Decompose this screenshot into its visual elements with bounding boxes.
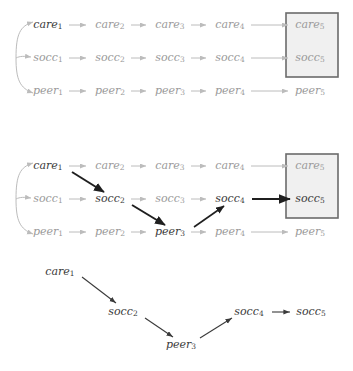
trellis-diagram: care1 care2 care3 care4 care5 socc1 socc… bbox=[0, 0, 353, 371]
